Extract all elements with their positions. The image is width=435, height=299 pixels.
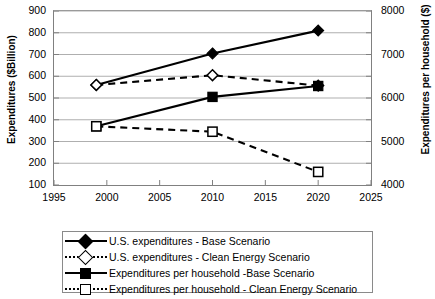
y-axis-right-title: Expenditures per household ($) [420, 25, 431, 155]
filled-diamond-icon [78, 233, 94, 249]
data-point-open-square [92, 122, 101, 131]
y-axis-left-tick-600: 600 [12, 69, 46, 81]
chart-container: Expenditures ($Billion) Expenditures per… [0, 0, 435, 299]
open-diamond-icon [78, 249, 94, 265]
y-axis-right-tick-5000: 5000 [381, 135, 421, 147]
data-point-filled-diamond [313, 25, 324, 36]
legend-label-1: U.S. expenditures - Clean Energy Scenari… [109, 251, 310, 263]
y-axis-left-tick-800: 800 [12, 26, 46, 38]
y-axis-right-tick-8000: 8000 [381, 4, 421, 16]
data-point-filled-square [314, 81, 323, 90]
x-axis-tick-2020: 2020 [298, 191, 338, 203]
chart-legend: U.S. expenditures - Base ScenarioU.S. ex… [62, 231, 373, 293]
legend-item-2[interactable]: Expenditures per household -Base Scenari… [63, 265, 372, 280]
x-axis-tick-2005: 2005 [140, 191, 180, 203]
legend-key-1 [63, 250, 109, 264]
series-line-0 [96, 31, 318, 85]
x-axis-tick-2015: 2015 [245, 191, 285, 203]
legend-item-0[interactable]: U.S. expenditures - Base Scenario [63, 233, 372, 248]
y-axis-right-tick-4000: 4000 [381, 178, 421, 190]
legend-label-2: Expenditures per household -Base Scenari… [109, 267, 314, 279]
data-point-open-square [314, 167, 323, 176]
y-axis-left-tick-100: 100 [12, 178, 46, 190]
y-axis-left-tick-700: 700 [12, 48, 46, 60]
y-axis-left-tick-500: 500 [12, 91, 46, 103]
series-line-2 [96, 86, 318, 126]
y-axis-left-tick-900: 900 [12, 4, 46, 16]
y-axis-left-tick-400: 400 [12, 113, 46, 125]
plot-area [53, 10, 372, 186]
legend-item-1[interactable]: U.S. expenditures - Clean Energy Scenari… [63, 249, 372, 264]
y-axis-left-tick-300: 300 [12, 135, 46, 147]
filled-square-icon [80, 268, 91, 279]
data-point-filled-square [208, 92, 217, 101]
data-point-open-square [208, 127, 217, 136]
x-axis-tick-2000: 2000 [87, 191, 127, 203]
data-point-filled-diamond [207, 48, 218, 59]
y-axis-right-tick-6000: 6000 [381, 91, 421, 103]
plot-svg [54, 11, 371, 185]
x-axis-tick-1995: 1995 [34, 191, 74, 203]
legend-label-0: U.S. expenditures - Base Scenario [109, 235, 270, 247]
x-axis-tick-2025: 2025 [351, 191, 391, 203]
legend-key-2 [63, 266, 109, 280]
open-square-icon [80, 284, 91, 295]
data-point-open-diamond [207, 70, 218, 81]
legend-key-0 [63, 234, 109, 248]
legend-label-3: Expenditures per household - Clean Energ… [109, 283, 357, 295]
y-axis-right-tick-7000: 7000 [381, 48, 421, 60]
y-axis-left-tick-200: 200 [12, 156, 46, 168]
data-point-open-diamond [91, 80, 102, 91]
legend-item-3[interactable]: Expenditures per household - Clean Energ… [63, 281, 372, 296]
legend-key-3 [63, 282, 109, 296]
x-axis-tick-2010: 2010 [193, 191, 233, 203]
